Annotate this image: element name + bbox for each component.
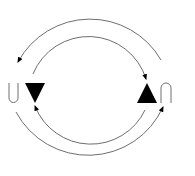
inverted-u-shape-icon: [161, 83, 171, 103]
inner-bottom-arc: [35, 106, 145, 144]
outer-bottom-arc: [16, 107, 163, 155]
outer-top-arc: [18, 19, 161, 62]
inner-top-arc: [33, 37, 146, 79]
down-triangle-icon: [25, 83, 45, 103]
up-triangle-icon: [137, 83, 157, 103]
u-shape-icon: [9, 83, 18, 103]
cycle-diagram: [0, 0, 195, 176]
